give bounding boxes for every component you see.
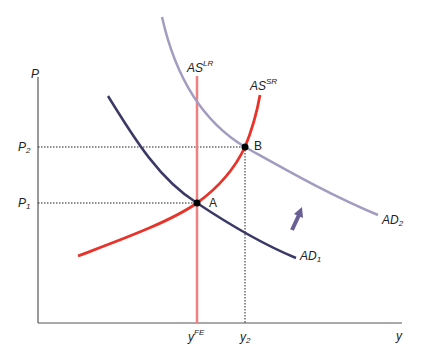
point-a-label: A	[209, 197, 217, 209]
as-lr-label: ASLR	[187, 62, 213, 74]
ad1-label: AD1	[300, 250, 321, 262]
shift-arrow-icon	[292, 207, 303, 230]
point-b-label: B	[254, 140, 262, 152]
p2-label: P2	[18, 141, 30, 153]
as-sr-curve	[78, 95, 260, 256]
y2-label: y2	[240, 331, 250, 343]
point-a-marker	[194, 200, 201, 207]
x-axis-label: y	[396, 330, 402, 342]
as-sr-label: ASSR	[250, 80, 277, 92]
y-axis-label: P	[31, 68, 39, 80]
p1-label: P1	[18, 197, 30, 209]
ad2-label: AD2	[382, 214, 403, 226]
point-b-marker	[242, 144, 249, 151]
chart-canvas	[0, 0, 439, 364]
ad2-curve	[162, 17, 378, 215]
yfe-label: yFE	[188, 331, 204, 343]
